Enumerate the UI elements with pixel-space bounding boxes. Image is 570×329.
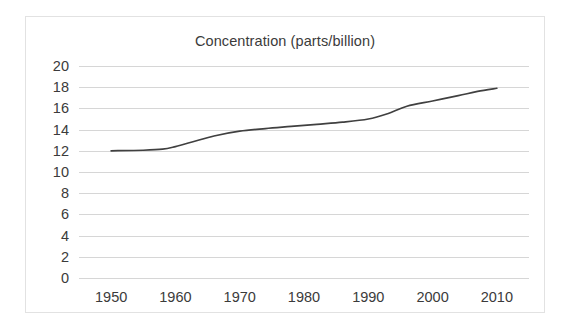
x-axis-tick-label: 1950: [95, 289, 127, 305]
y-axis-tick-label: 10: [53, 164, 69, 180]
chart-frame: Concentration (parts/billion) 0246810121…: [25, 16, 545, 313]
line-chart-plot: 02468101214161820 1950196019701980199020…: [26, 17, 546, 314]
y-axis-tick-label: 8: [61, 185, 69, 201]
y-axis-tick-label: 14: [53, 122, 69, 138]
y-axis-tick-label: 4: [61, 228, 69, 244]
y-axis-tick-label: 12: [53, 143, 69, 159]
x-axis-tick-labels: 1950196019701980199020002010: [95, 289, 513, 305]
y-axis-tick-label: 16: [53, 100, 69, 116]
x-axis-tick-label: 1990: [352, 289, 384, 305]
x-axis-tick-label: 1960: [159, 289, 191, 305]
data-series-line: [111, 88, 497, 151]
y-axis-tick-label: 20: [53, 58, 69, 74]
y-axis-tick-labels: 02468101214161820: [53, 58, 69, 286]
y-axis-tick-label: 2: [61, 249, 69, 265]
x-axis-tick-label: 2010: [481, 289, 513, 305]
x-axis-tick-label: 2000: [416, 289, 448, 305]
x-axis-tick-label: 1970: [224, 289, 256, 305]
x-axis-tick-label: 1980: [288, 289, 320, 305]
y-axis-tick-label: 6: [61, 206, 69, 222]
y-axis-tick-label: 18: [53, 79, 69, 95]
gridlines-group: [79, 67, 529, 279]
y-axis-tick-label: 0: [61, 270, 69, 286]
